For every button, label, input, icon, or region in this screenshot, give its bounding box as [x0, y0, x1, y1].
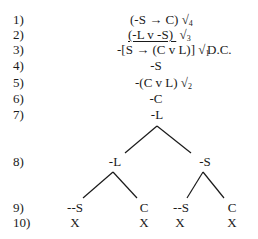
- node-rl: --S: [173, 201, 189, 215]
- node-rr: C: [228, 201, 237, 215]
- closed-branch-x-icon: X: [227, 216, 236, 230]
- branch-line: [125, 126, 157, 153]
- branch-line: [157, 126, 191, 153]
- closed-branch-x-icon: X: [139, 216, 148, 230]
- branch-line: [83, 172, 113, 198]
- tree-branches: [0, 0, 258, 239]
- closed-branch-x-icon: X: [70, 216, 79, 230]
- node-left-L: -L: [109, 155, 121, 169]
- closed-branch-x-icon: X: [175, 216, 184, 230]
- branch-line: [203, 172, 224, 198]
- branch-line: [187, 172, 203, 198]
- node-lr: C: [140, 201, 149, 215]
- branch-line: [113, 172, 137, 198]
- node-ll: --S: [67, 201, 83, 215]
- node-right-S: -S: [199, 155, 211, 169]
